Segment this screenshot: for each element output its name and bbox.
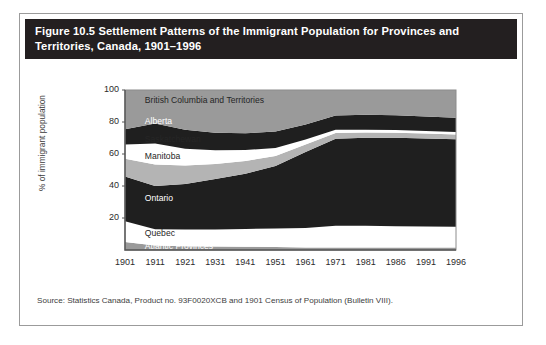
band-label-british-columbia-and-territories: British Columbia and Territories: [145, 95, 264, 105]
source-note: Source: Statistics Canada, Product no. 9…: [37, 295, 507, 306]
band-label-saskatchewan: Saskatchewan: [145, 134, 201, 144]
stacked-area-plot: [20, 60, 522, 282]
figure-header-bar: Figure 10.5 Settlement Patterns of the I…: [25, 19, 517, 59]
band-label-quebec: Quebec: [145, 228, 175, 238]
band-label-atlantic-provinces: Atlantic Provinces: [145, 241, 213, 251]
band-label-ontario: Ontario: [145, 193, 173, 203]
band-label-manitoba: Manitoba: [145, 151, 180, 161]
figure-frame: Figure 10.5 Settlement Patterns of the I…: [19, 13, 523, 326]
chart-area: % of immigrant population 20406080100 19…: [20, 60, 522, 282]
figure-title: Figure 10.5 Settlement Patterns of the I…: [35, 24, 507, 54]
band-label-alberta: Alberta: [145, 116, 172, 126]
